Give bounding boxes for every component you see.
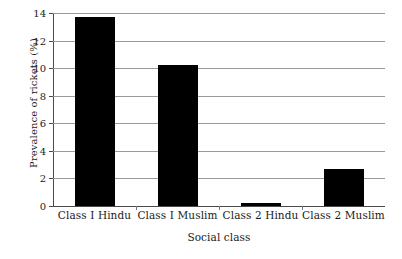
y-tick-mark <box>49 13 53 14</box>
x-tick-label: Class I Muslim <box>136 209 219 221</box>
y-tick-mark <box>49 151 53 152</box>
y-axis-spine <box>53 13 54 206</box>
gridline <box>53 13 385 14</box>
x-tick-label: Class 2 Muslim <box>302 209 385 221</box>
x-tick-label: Class 2 Hindu <box>219 209 302 221</box>
y-tick-mark <box>49 178 53 179</box>
plot-area: 02468101214 <box>53 13 385 206</box>
bar <box>324 169 364 206</box>
y-tick-mark <box>49 68 53 69</box>
chart-figure: Prevalence of rickets (%) 02468101214 Cl… <box>0 0 402 259</box>
bar <box>158 65 198 206</box>
y-tick-label: 8 <box>40 90 46 101</box>
y-tick-label: 12 <box>33 35 46 46</box>
y-tick-label: 10 <box>33 63 46 74</box>
x-axis-title: Social class <box>53 231 385 243</box>
y-tick-label: 2 <box>40 173 46 184</box>
y-tick-mark <box>49 96 53 97</box>
y-tick-mark <box>49 123 53 124</box>
bar <box>241 203 281 206</box>
x-tick-label: Class I Hindu <box>53 209 136 221</box>
y-tick-mark <box>49 41 53 42</box>
y-tick-label: 4 <box>40 145 46 156</box>
y-tick-label: 14 <box>33 8 46 19</box>
bar <box>75 17 115 206</box>
y-tick-label: 6 <box>40 118 46 129</box>
y-tick-mark <box>49 206 53 207</box>
y-tick-label: 0 <box>40 201 46 212</box>
